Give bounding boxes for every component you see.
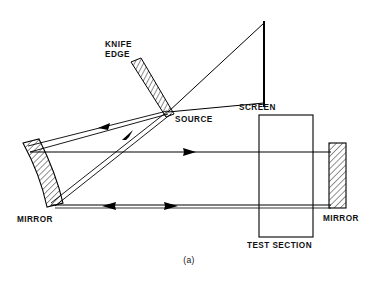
ray-source-to-screen-top <box>168 23 264 112</box>
figure-caption: (a) <box>183 255 194 265</box>
test-section-label: TEST SECTION <box>247 241 312 250</box>
optical-schematic-svg: KNIFE EDGE SOURCE SCREEN MIRROR MIRROR T… <box>0 0 378 281</box>
arrow-lower-horizontal-right <box>164 202 178 210</box>
arrow-upper-horizontal-right <box>183 148 196 156</box>
knife-edge-label-line2: EDGE <box>105 50 130 59</box>
knife-edge-component <box>131 58 174 117</box>
arrow-upper-diagonal-left <box>98 123 110 130</box>
mirror-left-component <box>23 139 63 207</box>
mirror-right-body <box>329 143 346 208</box>
knife-edge-body <box>131 58 174 117</box>
mirror-right-component <box>329 143 346 208</box>
arrow-lower-horizontal-left <box>102 202 116 210</box>
screen-label: SCREEN <box>239 103 276 112</box>
ray-mirror-to-source-lower-b <box>55 114 171 206</box>
knife-edge-label-line1: KNIFE <box>105 40 132 49</box>
mirror-left-label: MIRROR <box>17 215 53 224</box>
arrow-steep-diagonal-up <box>122 130 133 140</box>
mirror-left-body <box>23 139 63 207</box>
test-section-body <box>259 115 313 237</box>
mirror-right-label: MIRROR <box>323 214 359 223</box>
test-section-component <box>259 115 313 237</box>
ray-arrowheads <box>98 123 196 210</box>
schlieren-system-figure: KNIFE EDGE SOURCE SCREEN MIRROR MIRROR T… <box>0 0 378 281</box>
source-label: SOURCE <box>175 115 213 124</box>
